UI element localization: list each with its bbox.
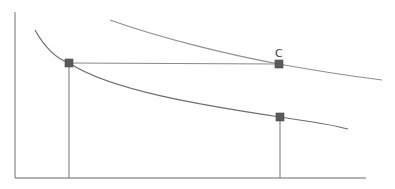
upper-curve: [110, 20, 382, 80]
diagram-canvas: C: [0, 0, 395, 189]
point-left-marker: [65, 59, 73, 67]
point-lower-right-marker: [276, 113, 284, 121]
point-c-label: C: [275, 47, 283, 60]
point-c-marker: [275, 60, 283, 68]
horizontal-guide: [69, 63, 279, 64]
